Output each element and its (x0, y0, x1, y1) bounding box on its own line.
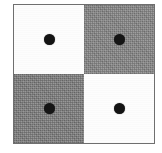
dot-marker-top-left (44, 34, 55, 45)
checkerboard-frame (13, 4, 155, 144)
quadrant-bottom-right (84, 74, 154, 143)
dot-marker-bottom-left (44, 103, 55, 114)
quadrant-top-right (84, 5, 154, 74)
figure-canvas (0, 0, 162, 153)
quadrant-top-left (14, 5, 84, 74)
dot-marker-top-right (114, 34, 125, 45)
dot-marker-bottom-right (114, 103, 125, 114)
quadrant-bottom-left (14, 74, 84, 143)
